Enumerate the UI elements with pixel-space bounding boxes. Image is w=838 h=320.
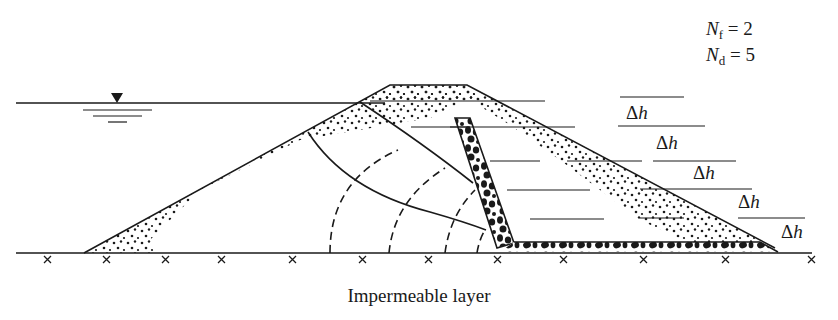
flow-line-2 (308, 132, 486, 230)
water-level-triangle-icon (111, 93, 123, 103)
equipotential-1 (330, 150, 398, 253)
blanket-drain (500, 242, 778, 252)
legend-nf-value: = 2 (728, 18, 753, 39)
crest-band (380, 85, 480, 100)
impermeable-base (16, 253, 815, 263)
delta-h-label-1: Δh (626, 102, 648, 124)
impermeable-layer-caption: Impermeable layer (0, 285, 838, 307)
legend-nd-subscript: d (719, 53, 726, 68)
legend-nd-value: = 5 (730, 44, 755, 65)
delta-h-label-4: Δh (738, 191, 760, 213)
delta-h-label-3: Δh (693, 162, 715, 184)
equipotential-4 (477, 230, 485, 253)
legend-nd-symbol: N (706, 44, 719, 65)
legend-nf-symbol: N (706, 18, 719, 39)
legend-drops: Nd = 5 (706, 44, 755, 69)
delta-h-label-2: Δh (656, 132, 678, 154)
delta-h-label-5: Δh (781, 221, 803, 243)
legend-flow-channels: Nf = 2 (706, 18, 753, 43)
legend-nf-subscript: f (719, 27, 723, 42)
flow-net-diagram: Nf = 2 Nd = 5 Δh Δh Δh Δh Δh Impermeable… (0, 0, 838, 320)
base-cross-marks (44, 256, 815, 263)
chimney-drain (455, 118, 514, 248)
equipotential-lines (330, 150, 485, 253)
equipotential-2 (389, 168, 445, 253)
